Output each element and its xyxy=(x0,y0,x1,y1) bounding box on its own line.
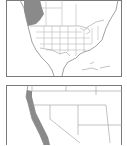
western-us-detail-map xyxy=(6,85,122,145)
north-america-map-svg xyxy=(6,0,122,77)
western-us-map-svg xyxy=(6,85,122,145)
north-america-range-map xyxy=(6,0,122,77)
map-frame xyxy=(7,86,122,146)
map-frame xyxy=(7,1,122,77)
